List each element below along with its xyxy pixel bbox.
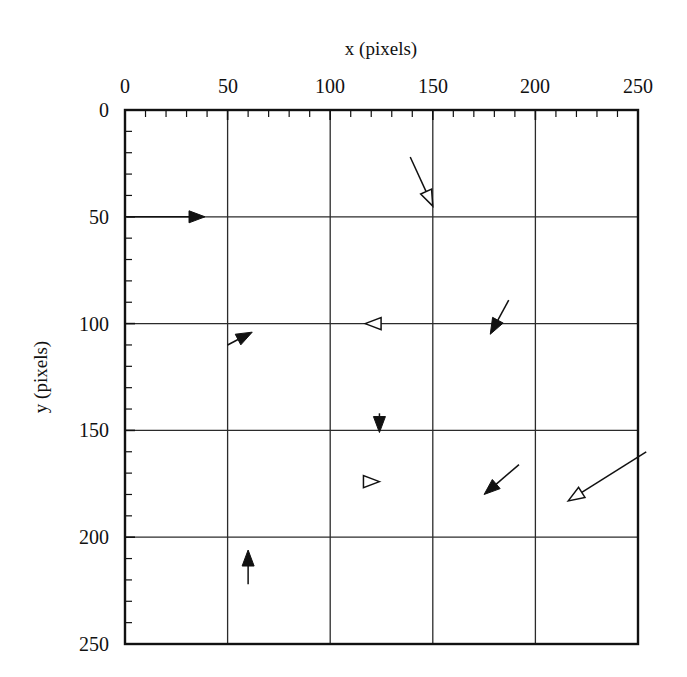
vector-field-chart: x (pixels) y (pixels) 0 50 100 150 200 2…	[0, 0, 687, 677]
x-axis-title: x (pixels)	[345, 38, 417, 60]
x-tick-label: 0	[120, 75, 130, 97]
y-tick-label: 250	[79, 633, 109, 655]
x-tick-label: 200	[520, 75, 550, 97]
x-tick-label: 100	[315, 75, 345, 97]
x-tick-label: 150	[418, 75, 448, 97]
y-axis-title: y (pixels)	[30, 341, 52, 413]
y-tick-label: 200	[79, 526, 109, 548]
x-tick-label: 250	[623, 75, 653, 97]
y-tick-label: 0	[99, 99, 109, 121]
y-tick-label: 150	[79, 419, 109, 441]
y-tick-label: 100	[79, 313, 109, 335]
figure-root: x (pixels) y (pixels) 0 50 100 150 200 2…	[0, 0, 687, 677]
y-tick-label: 50	[89, 206, 109, 228]
x-tick-label: 50	[218, 75, 238, 97]
